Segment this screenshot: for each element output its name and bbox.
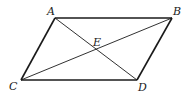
label-a: A — [46, 5, 55, 18]
label-d: D — [137, 81, 147, 94]
edge-bd — [137, 18, 172, 80]
diagonal-cb — [21, 18, 172, 80]
label-b: B — [172, 5, 181, 18]
parallelogram-diagram: A B C D E — [0, 0, 190, 99]
label-e: E — [92, 36, 101, 49]
label-c: C — [9, 80, 18, 93]
edge-ca — [21, 18, 55, 80]
